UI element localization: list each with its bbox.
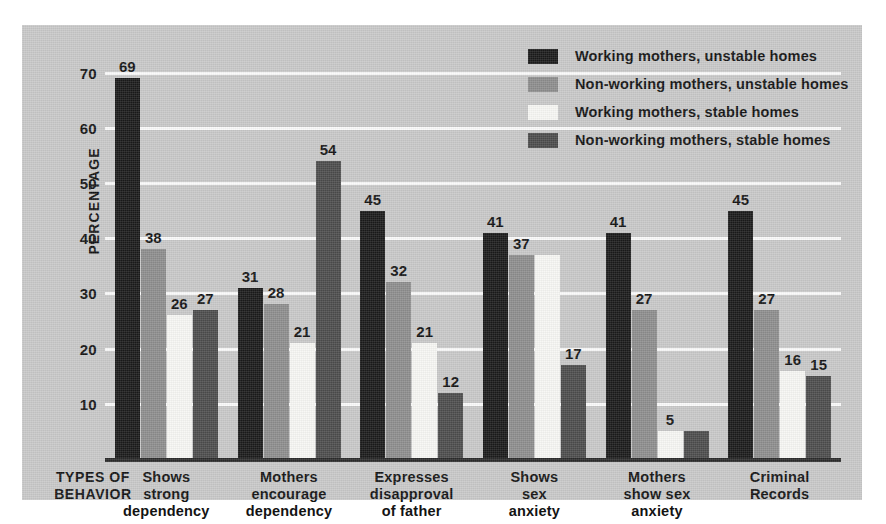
bar bbox=[728, 211, 753, 459]
bar bbox=[509, 255, 534, 459]
x-axis-baseline bbox=[105, 458, 841, 462]
bar-value-label: 45 bbox=[732, 191, 749, 208]
y-tick-label-30: 30 bbox=[80, 285, 97, 302]
bar bbox=[806, 376, 831, 459]
legend-swatch bbox=[528, 49, 558, 64]
bar bbox=[115, 78, 140, 459]
bar-value-label: 27 bbox=[636, 290, 653, 307]
bar bbox=[360, 211, 385, 459]
x-category-label: Showsstrongdependency bbox=[95, 469, 238, 520]
legend-label: Working mothers, stable homes bbox=[575, 104, 799, 120]
legend-swatch bbox=[528, 105, 558, 120]
x-category-label-line: sex bbox=[522, 486, 547, 502]
bar bbox=[141, 249, 166, 459]
x-category-label: Mothersencouragedependency bbox=[218, 469, 361, 520]
bar-value-label: 27 bbox=[197, 290, 214, 307]
bar bbox=[780, 371, 805, 459]
bar bbox=[535, 255, 560, 459]
bar-value-label: 38 bbox=[145, 229, 162, 246]
y-tick-label-50: 50 bbox=[80, 175, 97, 192]
x-category-label-line: anxiety bbox=[631, 503, 682, 519]
x-category-label-line: dependency bbox=[123, 503, 210, 519]
y-tick-label-70: 70 bbox=[80, 64, 97, 81]
bar bbox=[632, 310, 657, 459]
bar bbox=[754, 310, 779, 459]
y-tick-label-40: 40 bbox=[80, 230, 97, 247]
bar-chart-figure: PERCENTAGE 10203040506070 69382627312821… bbox=[22, 25, 862, 500]
x-category-label-line: of father bbox=[382, 503, 442, 519]
x-category-label-line: show sex bbox=[624, 486, 691, 502]
x-category-label-line: encourage bbox=[251, 486, 326, 502]
x-category-label: CriminalRecords bbox=[708, 469, 851, 503]
bar bbox=[658, 431, 683, 459]
x-category-label-line: Records bbox=[750, 486, 809, 502]
x-axis-category-labels: TYPES OF BEHAVIOR ShowsstrongdependencyM… bbox=[22, 465, 862, 524]
bar bbox=[483, 233, 508, 459]
bar-value-label: 54 bbox=[320, 141, 337, 158]
bar-value-label: 31 bbox=[242, 268, 259, 285]
bar-value-label: 32 bbox=[390, 262, 407, 279]
bar-value-label: 16 bbox=[784, 351, 801, 368]
x-category-label: Showssexanxiety bbox=[463, 469, 606, 520]
y-tick-label-20: 20 bbox=[80, 340, 97, 357]
bar-value-label: 17 bbox=[565, 345, 582, 362]
x-category-label-line: strong bbox=[143, 486, 189, 502]
legend-item: Working mothers, unstable homes bbox=[528, 42, 849, 70]
bar-group bbox=[360, 48, 463, 459]
bar-value-label: 41 bbox=[487, 213, 504, 230]
bar-value-label: 27 bbox=[758, 290, 775, 307]
legend-label: Working mothers, unstable homes bbox=[575, 48, 817, 64]
legend-item: Working mothers, stable homes bbox=[528, 98, 849, 126]
bar bbox=[412, 343, 437, 459]
bar bbox=[193, 310, 218, 459]
bar bbox=[561, 365, 586, 459]
x-category-label-line: Shows bbox=[142, 469, 190, 485]
bar bbox=[386, 282, 411, 459]
bar bbox=[290, 343, 315, 459]
bar-value-label: 5 bbox=[666, 411, 674, 428]
chart-legend: Working mothers, unstable homesNon-worki… bbox=[528, 42, 849, 154]
legend-label: Non-working mothers, unstable homes bbox=[575, 76, 849, 92]
bar-group bbox=[238, 48, 341, 459]
gridline-50 bbox=[105, 182, 841, 185]
x-category-label-line: Criminal bbox=[750, 469, 810, 485]
y-axis-tick-labels: 10203040506070 bbox=[65, 48, 97, 459]
bar-value-label: 21 bbox=[416, 323, 433, 340]
legend-item: Non-working mothers, stable homes bbox=[528, 126, 849, 154]
x-category-label-line: Expresses bbox=[374, 469, 448, 485]
bar bbox=[438, 393, 463, 459]
bar-value-label: 37 bbox=[513, 235, 530, 252]
x-category-label-line: dependency bbox=[246, 503, 333, 519]
x-category-label-line: Mothers bbox=[628, 469, 686, 485]
x-category-label-line: anxiety bbox=[509, 503, 560, 519]
bar-group bbox=[115, 48, 218, 459]
legend-item: Non-working mothers, unstable homes bbox=[528, 70, 849, 98]
bar bbox=[606, 233, 631, 459]
bar-value-label: 45 bbox=[364, 191, 381, 208]
bar-value-label: 69 bbox=[119, 58, 136, 75]
legend-swatch bbox=[528, 77, 558, 92]
bar bbox=[684, 431, 709, 459]
legend-swatch bbox=[528, 133, 558, 148]
bar-value-label: 41 bbox=[610, 213, 627, 230]
x-category-label-line: Shows bbox=[510, 469, 558, 485]
bar-value-label: 21 bbox=[294, 323, 311, 340]
bar-value-label: 12 bbox=[442, 373, 459, 390]
bar-value-label: 28 bbox=[268, 284, 285, 301]
y-tick-label-60: 60 bbox=[80, 119, 97, 136]
x-category-label: Mothersshow sexanxiety bbox=[586, 469, 729, 520]
y-tick-label-10: 10 bbox=[80, 395, 97, 412]
bar-value-label: 26 bbox=[171, 295, 188, 312]
x-category-label-line: disapproval bbox=[370, 486, 454, 502]
x-category-label-line: Mothers bbox=[260, 469, 318, 485]
bar bbox=[264, 304, 289, 459]
bar bbox=[316, 161, 341, 459]
bar bbox=[238, 288, 263, 459]
bar-value-label: 15 bbox=[810, 356, 827, 373]
x-category-label: Expressesdisapprovalof father bbox=[340, 469, 483, 520]
legend-label: Non-working mothers, stable homes bbox=[575, 132, 831, 148]
bar bbox=[167, 315, 192, 459]
